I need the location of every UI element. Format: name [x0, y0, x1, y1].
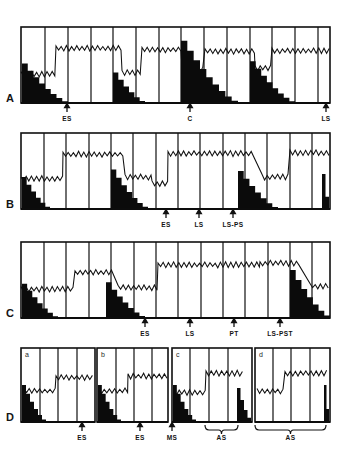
panel-b-frame — [21, 133, 330, 209]
panel-d-marker-label-3: AS — [217, 434, 227, 441]
panel-d-marker-label-4: AS — [286, 434, 296, 441]
panel-b-letter: B — [6, 198, 14, 210]
panel-a-marker-label-1: C — [187, 115, 192, 122]
panel-b-marker-label-1: LS — [194, 221, 203, 228]
panel-d-brace-3 — [205, 425, 238, 434]
panel-c-arrowhead-2 — [232, 319, 237, 323]
panel-b-arrowhead-0 — [164, 210, 169, 214]
panel-c-letter: C — [6, 307, 14, 319]
panel-d-brace-4 — [255, 425, 326, 434]
panel-a-marker-label-2: LS — [321, 115, 330, 122]
panel-a-frame — [21, 27, 330, 103]
panel-c-marker-label-0: ES — [140, 330, 150, 337]
panel-a-letter: A — [6, 92, 14, 104]
panel-d-letter: D — [6, 411, 14, 423]
figure-canvas: ESCLSAESLSLS-PSBESLSPTLS-PSTCabcdESESMSA… — [0, 0, 340, 452]
panel-b-marker-label-0: ES — [161, 221, 171, 228]
panel-d-c-sublabel: c — [176, 351, 180, 358]
panel-a-arrowhead-2 — [324, 104, 329, 108]
panel-c-arrowhead-0 — [143, 319, 148, 323]
panel-b-marker-label-2: LS-PS — [222, 221, 243, 228]
panel-c-marker-label-2: PT — [229, 330, 238, 337]
panel-d-marker-label-1: ES — [135, 434, 145, 441]
panel-b-arrowhead-1 — [197, 210, 202, 214]
panel-d-d-frame — [255, 348, 330, 422]
panel-c-marker-label-1: LS — [185, 330, 194, 337]
panel-a-arrowhead-0 — [65, 104, 70, 108]
polygraph-figure-svg: ESCLSAESLSLS-PSBESLSPTLS-PSTCabcdESESMSA… — [0, 0, 340, 452]
panel-b-arrowhead-2 — [231, 210, 236, 214]
panel-c-arrowhead-3 — [278, 319, 283, 323]
panel-d-d-sublabel: d — [259, 351, 263, 358]
panel-d-a-sublabel: a — [25, 351, 29, 358]
panel-c-arrowhead-1 — [188, 319, 193, 323]
panel-d-marker-label-2: MS — [167, 434, 178, 441]
panel-c-marker-label-3: LS-PST — [267, 330, 293, 337]
panel-c-frame — [21, 242, 330, 318]
panel-a-arrowhead-1 — [188, 104, 193, 108]
panel-d-arrowhead-2 — [170, 423, 175, 427]
panel-d-arrowhead-1 — [138, 423, 143, 427]
panel-d-marker-label-0: ES — [77, 434, 87, 441]
panel-d-arrowhead-0 — [80, 423, 85, 427]
panel-a-marker-label-0: ES — [62, 115, 72, 122]
panel-d-b-sublabel: b — [101, 351, 105, 358]
